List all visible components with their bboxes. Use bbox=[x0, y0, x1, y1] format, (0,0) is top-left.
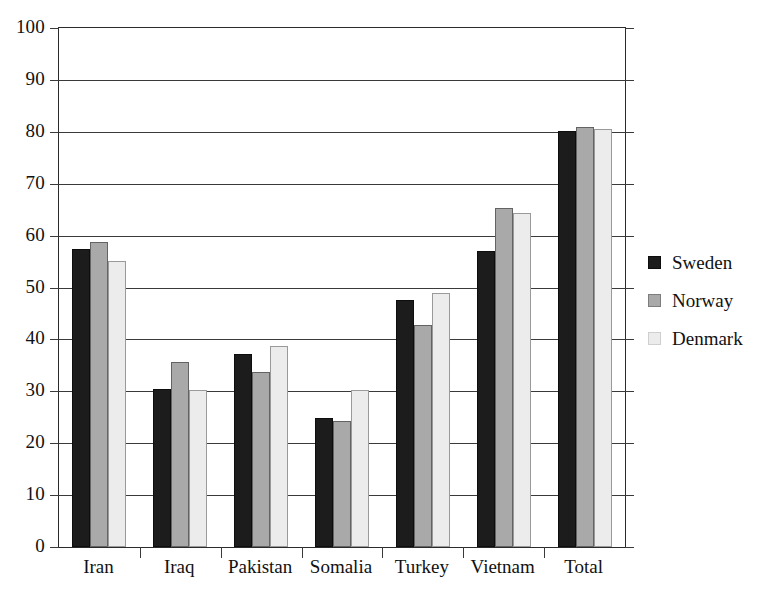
bar-chart: 0102030405060708090100 IranIraqPakistanS… bbox=[0, 0, 764, 602]
bar-vietnam-norway bbox=[495, 208, 513, 547]
y-axis-tick-mark bbox=[50, 547, 59, 548]
gridline bbox=[59, 339, 625, 340]
y-axis-tick-label: 70 bbox=[1, 173, 45, 192]
y-axis-tick-mark bbox=[50, 80, 59, 81]
y-axis-tick-label: 60 bbox=[1, 225, 45, 244]
bar-iraq-norway bbox=[171, 362, 189, 547]
gridline bbox=[59, 132, 625, 133]
y-axis-tick-mark bbox=[50, 132, 59, 133]
bar-somalia-denmark bbox=[351, 390, 369, 547]
bar-total-norway bbox=[576, 127, 594, 547]
legend-swatch-icon bbox=[648, 294, 661, 307]
bar-somalia-norway bbox=[333, 421, 351, 547]
gridline bbox=[59, 288, 625, 289]
y-axis-tick-mark-right bbox=[625, 184, 634, 185]
y-axis-tick-mark-right bbox=[625, 288, 634, 289]
y-axis-tick-mark-right bbox=[625, 80, 634, 81]
chart-legend: SwedenNorwayDenmark bbox=[648, 243, 743, 357]
y-axis-tick-label: 30 bbox=[1, 380, 45, 399]
y-axis-tick-mark bbox=[50, 28, 59, 29]
bar-iran-sweden bbox=[72, 249, 90, 547]
bar-total-denmark bbox=[594, 129, 612, 547]
bar-turkey-norway bbox=[414, 325, 432, 547]
bar-iran-denmark bbox=[108, 261, 126, 547]
y-axis-tick-mark bbox=[50, 339, 59, 340]
y-axis-tick-label: 90 bbox=[1, 69, 45, 88]
y-axis-tick-mark-right bbox=[625, 339, 634, 340]
bar-pakistan-denmark bbox=[270, 346, 288, 547]
x-axis-label-vietnam: Vietnam bbox=[462, 556, 543, 578]
y-axis-tick-mark-right bbox=[625, 547, 634, 548]
bar-iraq-denmark bbox=[189, 390, 207, 547]
x-axis-label-turkey: Turkey bbox=[381, 556, 462, 578]
y-axis-tick-mark bbox=[50, 495, 59, 496]
y-axis-tick-mark-right bbox=[625, 391, 634, 392]
gridline bbox=[59, 391, 625, 392]
gridline bbox=[59, 236, 625, 237]
x-axis-label-total: Total bbox=[543, 556, 624, 578]
y-axis-tick-mark bbox=[50, 391, 59, 392]
x-axis-label-pakistan: Pakistan bbox=[220, 556, 301, 578]
y-axis-tick-mark bbox=[50, 443, 59, 444]
bar-total-sweden bbox=[558, 131, 576, 547]
legend-swatch-icon bbox=[648, 256, 661, 269]
legend-item-label: Norway bbox=[672, 291, 733, 310]
gridline bbox=[59, 80, 625, 81]
bar-vietnam-sweden bbox=[477, 251, 495, 547]
legend-item-label: Sweden bbox=[672, 253, 732, 272]
legend-item-norway: Norway bbox=[648, 281, 743, 319]
y-axis-tick-label: 100 bbox=[1, 17, 45, 36]
x-axis-label-iran: Iran bbox=[58, 556, 139, 578]
y-axis-tick-mark-right bbox=[625, 443, 634, 444]
y-axis-tick-label: 40 bbox=[1, 328, 45, 347]
bar-turkey-sweden bbox=[396, 300, 414, 547]
legend-swatch-icon bbox=[648, 332, 661, 345]
x-axis-label-somalia: Somalia bbox=[301, 556, 382, 578]
x-axis-label-iraq: Iraq bbox=[139, 556, 220, 578]
gridline bbox=[59, 184, 625, 185]
legend-item-label: Denmark bbox=[672, 329, 743, 348]
bar-pakistan-norway bbox=[252, 372, 270, 547]
y-axis-tick-label: 50 bbox=[1, 277, 45, 296]
y-axis-tick-label: 10 bbox=[1, 484, 45, 503]
plot-area bbox=[58, 27, 626, 548]
legend-item-sweden: Sweden bbox=[648, 243, 743, 281]
bar-vietnam-denmark bbox=[513, 213, 531, 547]
y-axis-tick-mark-right bbox=[625, 28, 634, 29]
y-axis-tick-mark-right bbox=[625, 495, 634, 496]
bar-turkey-denmark bbox=[432, 293, 450, 547]
bar-iran-norway bbox=[90, 242, 108, 547]
bar-somalia-sweden bbox=[315, 418, 333, 547]
legend-item-denmark: Denmark bbox=[648, 319, 743, 357]
y-axis-tick-mark-right bbox=[625, 236, 634, 237]
bar-pakistan-sweden bbox=[234, 354, 252, 547]
y-axis-tick-mark bbox=[50, 288, 59, 289]
y-axis-tick-mark-right bbox=[625, 132, 634, 133]
bar-iraq-sweden bbox=[153, 389, 171, 547]
y-axis-tick-label: 0 bbox=[1, 536, 45, 555]
y-axis-tick-label: 20 bbox=[1, 432, 45, 451]
y-axis-tick-mark bbox=[50, 184, 59, 185]
y-axis-tick-mark bbox=[50, 236, 59, 237]
y-axis-tick-label: 80 bbox=[1, 121, 45, 140]
